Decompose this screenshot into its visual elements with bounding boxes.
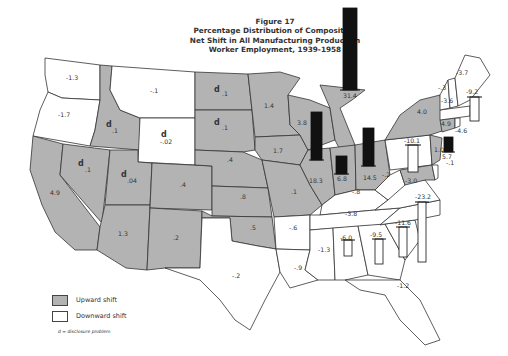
legend: Upward shift Downward shift [52,292,127,324]
label-mi: 31.4 [343,92,357,99]
d-sd: d [214,118,220,127]
label-ne: .4 [227,156,233,163]
bar-in [336,156,347,174]
label-ca: 4.9 [50,189,60,196]
label-md: 1.0 [434,146,444,153]
label-ok: .5 [250,224,256,231]
label-mt: -.1 [150,87,158,94]
label-la: -.9 [294,264,302,271]
label-ut: .04 [127,177,137,184]
label-tx: -.2 [232,272,240,279]
legend-down-label: Downward shift [76,312,127,320]
d-nv: d [78,159,84,168]
swatch-down [52,311,68,322]
state-ar [274,215,310,250]
label-sd: .1 [222,124,228,131]
label-nh: -3.6 [441,97,453,104]
swatch-up [52,295,68,306]
label-nc: -23.2 [415,193,431,200]
label-ky: -.8 [352,188,360,195]
label-ia: 1.7 [273,147,283,154]
bar-sc [399,227,407,257]
label-wa: -1.3 [66,74,78,81]
label-vt: -.3 [438,84,446,91]
label-ms: -1.3 [318,246,330,253]
state-az [97,205,150,270]
bar-oh [363,128,374,166]
state-ks [212,186,272,217]
label-de: -.1 [446,159,454,166]
label-in: 6.8 [337,175,347,182]
label-az: 1.3 [118,230,128,237]
label-ar: -.6 [289,224,297,231]
legend-down: Downward shift [52,308,127,324]
state-fl [345,280,440,345]
label-oh: 14.5 [363,174,377,181]
bar-ma [470,97,479,121]
legend-up: Upward shift [52,292,127,308]
bar-pa [408,145,418,172]
state-or [33,92,100,146]
label-pa: -10.1 [404,137,420,144]
label-ct: 4.9 [441,120,451,127]
bar-mi [343,8,357,90]
label-sc: -11.6 [395,219,411,226]
label-va: -3.0 [405,177,417,184]
label-fl: -1.2 [397,282,409,289]
d-nd: d [214,85,220,94]
bar-nj [444,137,453,152]
label-ma: -9.2 [466,88,478,95]
label-al: -6.0 [340,234,352,241]
label-wv: -.2 [382,171,390,178]
label-nv: .1 [85,166,91,173]
label-wy: -.02 [160,138,172,145]
label-id: .1 [112,127,118,134]
label-wi: 3.8 [297,119,307,126]
bar-nc [418,202,426,262]
legend-up-label: Upward shift [76,296,117,304]
label-il: 18.3 [309,177,323,184]
bar-ga [375,239,383,264]
label-co: .4 [180,181,186,188]
bar-al [344,240,352,256]
bar-il [311,112,322,160]
label-nm: .2 [173,234,179,241]
disclosure-note: d = disclosure problem [58,329,110,334]
state-ny [385,95,445,140]
label-ri: -4.6 [455,127,467,134]
label-ny: 4.0 [417,108,427,115]
label-mn: 1.4 [264,102,274,109]
label-nd: .1 [222,90,228,97]
label-tn: -3.8 [345,210,357,217]
state-sd [195,110,255,152]
label-or: -1.7 [58,111,70,118]
label-me: -3.7 [456,69,468,76]
label-mo: .1 [291,188,297,195]
label-ga: -9.5 [370,231,382,238]
label-ks: .8 [240,193,246,200]
